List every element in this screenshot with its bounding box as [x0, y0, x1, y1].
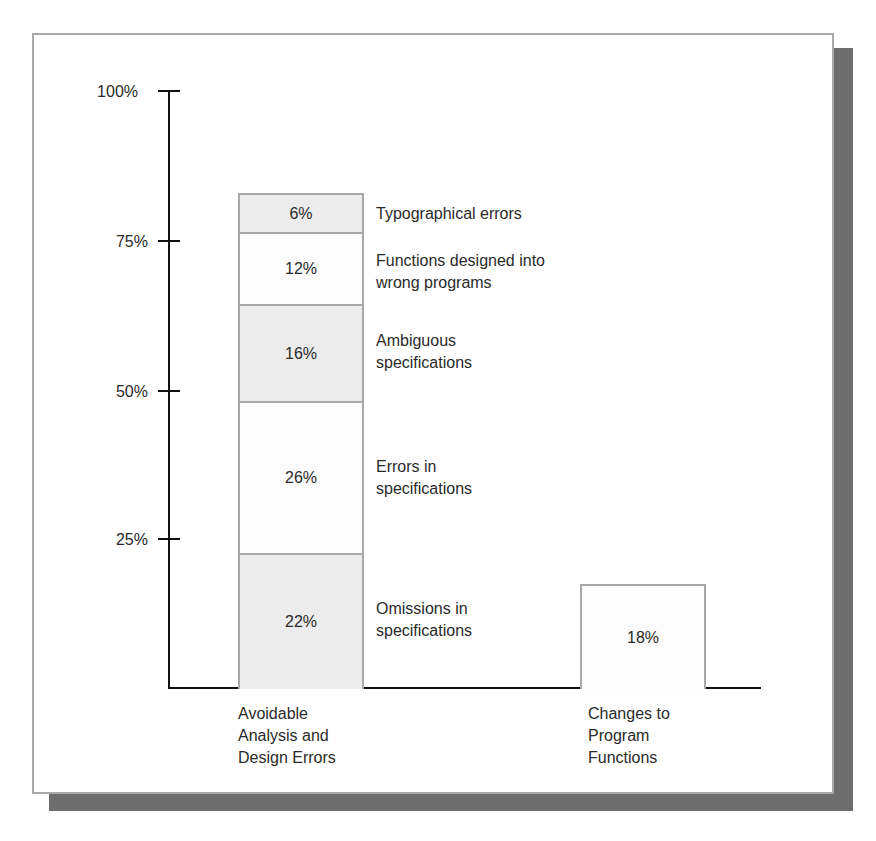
- segment-wrong-programs: 12%: [238, 232, 364, 306]
- segment-value: 6%: [289, 205, 312, 223]
- tick-25: [158, 538, 180, 540]
- category-label-avoidable-errors: Avoidable Analysis and Design Errors: [238, 703, 336, 769]
- segment-desc-omissions: Omissions in specifications: [376, 598, 472, 642]
- segment-value: 16%: [285, 345, 317, 363]
- tick-label-100: 100%: [78, 84, 138, 100]
- chart-panel: [32, 33, 834, 794]
- segment-desc-typographical: Typographical errors: [376, 203, 522, 225]
- segment-value: 26%: [285, 469, 317, 487]
- tick-50: [158, 390, 180, 392]
- segment-typographical: 6%: [238, 193, 364, 234]
- tick-label-50: 50%: [88, 384, 148, 400]
- tick-label-25: 25%: [88, 532, 148, 548]
- segment-omissions: 22%: [238, 553, 364, 689]
- tick-75: [158, 240, 180, 242]
- segment-ambiguous: 16%: [238, 304, 364, 403]
- tick-100: [158, 90, 180, 92]
- bar-value: 18%: [627, 629, 659, 647]
- segment-value: 22%: [285, 613, 317, 631]
- segment-value: 12%: [285, 260, 317, 278]
- segment-errors: 26%: [238, 401, 364, 555]
- bar-changes-to-program-functions: 18%: [580, 584, 706, 689]
- segment-desc-errors: Errors in specifications: [376, 456, 472, 500]
- category-label-changes: Changes to Program Functions: [588, 703, 670, 769]
- segment-desc-wrong-programs: Functions designed into wrong programs: [376, 250, 545, 294]
- tick-label-75: 75%: [88, 234, 148, 250]
- segment-desc-ambiguous: Ambiguous specifications: [376, 330, 472, 374]
